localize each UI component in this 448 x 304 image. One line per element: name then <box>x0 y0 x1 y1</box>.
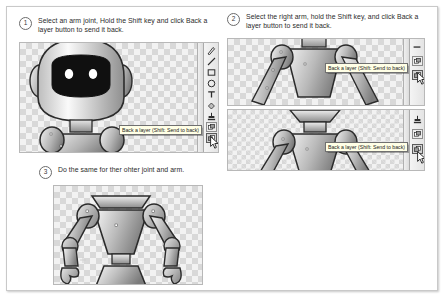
step-1-header: 1 Select an arm joint, Hold the Shift ke… <box>19 16 219 35</box>
robot-artwork-arms-lowered <box>242 109 394 171</box>
pen-icon[interactable] <box>206 45 217 55</box>
step-3-header: 3 Do the same for ther ohter joint and a… <box>39 165 229 179</box>
robot-artwork-both-arms-back <box>56 190 202 285</box>
forward-a-layer-icon[interactable] <box>412 56 423 66</box>
rectangle-icon[interactable] <box>206 67 217 77</box>
step-1-canvas[interactable]: Back a layer (Shift: Send to back) <box>19 42 219 153</box>
step-1-text: Select an arm joint, Hold the Shift key … <box>38 16 219 35</box>
text-icon[interactable] <box>206 89 217 99</box>
back-a-layer-tooltip: Back a layer (Shift: Send to back) <box>325 63 408 73</box>
robot-artwork-head <box>26 42 176 153</box>
ellipse-icon[interactable] <box>206 78 217 88</box>
step-2-block: 2 Select the right arm, hold the Shift k… <box>227 12 431 172</box>
back-a-layer-tooltip: Back a layer (Shift: Send to back) <box>325 142 408 152</box>
forward-a-layer-icon[interactable] <box>206 122 217 132</box>
step-3-block: 3 Do the same for ther ohter joint and a… <box>39 165 229 287</box>
back-a-layer-tooltip: Back a layer (Shift: Send to back) <box>119 125 202 135</box>
forward-a-layer-icon[interactable] <box>412 129 423 139</box>
step-1-block: 1 Select an arm joint, Hold the Shift ke… <box>19 16 219 153</box>
step-2-canvas-top[interactable]: Back a layer (Shift: Send to back) <box>227 38 425 106</box>
stamp-icon[interactable] <box>206 111 217 121</box>
mouse-cursor-icon <box>210 135 219 153</box>
minimize-icon[interactable] <box>412 42 423 52</box>
stamp-icon[interactable] <box>412 114 423 124</box>
step-2-text: Select the right arm, hold the Shift key… <box>246 12 431 31</box>
step-2-header: 2 Select the right arm, hold the Shift k… <box>227 12 431 31</box>
step-3-number: 3 <box>39 166 52 179</box>
fill-bucket-icon[interactable] <box>206 100 217 110</box>
line-icon[interactable] <box>206 56 217 66</box>
tutorial-page-frame: 1 Select an arm joint, Hold the Shift ke… <box>6 6 438 291</box>
step-2-number: 2 <box>227 13 240 26</box>
mouse-cursor-icon <box>417 71 425 89</box>
mouse-cursor-icon <box>417 150 425 168</box>
step-3-canvas[interactable] <box>53 185 203 285</box>
step-3-text: Do the same for ther ohter joint and arm… <box>58 165 184 174</box>
step-1-number: 1 <box>19 17 32 30</box>
step-2-canvas-bottom[interactable]: Back a layer (Shift: Send to back) <box>227 109 425 171</box>
